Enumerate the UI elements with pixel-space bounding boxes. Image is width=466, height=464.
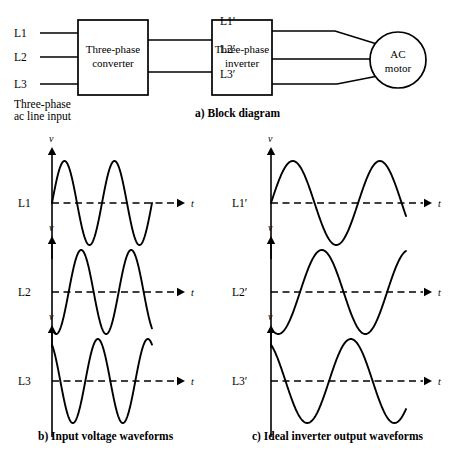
phase-label-l3: L3 [18, 375, 31, 387]
output-lead-1 [272, 31, 375, 44]
arrowhead-right-icon [177, 199, 185, 207]
v-axis-label-l1-prime: v [268, 133, 273, 144]
arrowhead-up-icon [267, 147, 275, 155]
input-terminal-label-2: L2 [14, 51, 27, 63]
figure-root: L1L2L3Three-phaseac line inputThree-phas… [0, 0, 466, 464]
phase-label-l1-prime: L1′ [232, 197, 247, 209]
t-axis-label-l2-prime: t [438, 287, 441, 298]
v-axis-label-l3-prime: v [268, 311, 273, 322]
motor-label-line1: AC [390, 48, 405, 60]
motor-label-line2: motor [385, 62, 412, 74]
ac-motor-circle[interactable] [370, 32, 426, 88]
t-axis-label-l2: t [191, 287, 194, 298]
input-terminal-label-1: L1 [14, 27, 27, 39]
output-terminal-label-1: L1′ [220, 15, 235, 27]
v-axis-label-l3: v [49, 311, 54, 322]
three-phase-drive-figure: L1L2L3Three-phaseac line inputThree-phas… [0, 0, 466, 464]
arrowhead-up-icon [48, 236, 56, 244]
phase-label-l2: L2 [18, 286, 31, 298]
waveform-l3-prime [271, 339, 406, 423]
v-axis-label-l2: v [49, 222, 54, 233]
t-axis-label-l1: t [191, 198, 194, 209]
phase-label-l1: L1 [18, 197, 31, 209]
arrowhead-right-icon [177, 377, 185, 385]
output-waveforms-caption: c) Ideal inverter output waveforms [252, 430, 424, 443]
converter-label-line1: Three-phase [86, 43, 140, 55]
input-terminal-label-3: L3 [14, 78, 27, 90]
arrowhead-right-icon [424, 199, 432, 207]
output-terminal-label-2: L2′ [220, 43, 235, 55]
arrowhead-right-icon [177, 288, 185, 296]
t-axis-label-l3: t [191, 376, 194, 387]
input-waveforms-caption: b) Input voltage waveforms [38, 430, 174, 443]
converter-label-line2: converter [92, 57, 134, 69]
waveform-l2-prime [271, 250, 406, 334]
v-axis-label-l2-prime: v [268, 222, 273, 233]
phase-label-l3-prime: L3′ [232, 375, 247, 387]
arrowhead-up-icon [48, 147, 56, 155]
t-axis-label-l3-prime: t [438, 376, 441, 387]
phase-label-l2-prime: L2′ [232, 286, 247, 298]
t-axis-label-l1-prime: t [438, 198, 441, 209]
v-axis-label-l1: v [49, 133, 54, 144]
output-terminal-label-3: L3′ [220, 68, 235, 80]
arrowhead-right-icon [424, 288, 432, 296]
output-lead-3 [272, 76, 375, 84]
block-diagram-caption: a) Block diagram [195, 107, 280, 120]
arrowhead-up-icon [267, 325, 275, 333]
arrowhead-up-icon [267, 236, 275, 244]
waveform-l1-prime [271, 161, 406, 245]
output-lead-2 [272, 59, 370, 60]
arrowhead-up-icon [48, 325, 56, 333]
input-note-line2: ac line input [14, 110, 72, 123]
arrowhead-right-icon [424, 377, 432, 385]
